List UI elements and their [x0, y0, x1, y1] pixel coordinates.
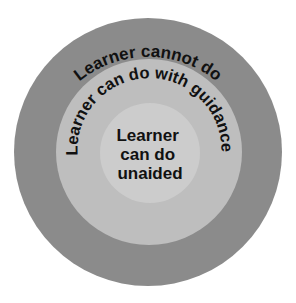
inner-label-line-2: can do — [120, 145, 175, 164]
inner-label-line-1: Learner — [116, 126, 179, 145]
zpd-diagram: Learner cannot do Learner can do with gu… — [0, 0, 296, 303]
inner-label-line-3: unaided — [117, 164, 182, 183]
inner-circle-label: Learner can do unaided — [116, 126, 183, 183]
